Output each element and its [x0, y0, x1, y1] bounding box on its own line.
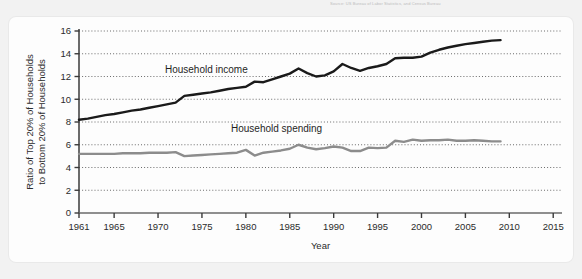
axes — [79, 29, 562, 213]
y-axis-ticks: 0246810121416 — [60, 25, 79, 218]
x-tick-label: 1975 — [191, 221, 212, 232]
y-tick-label: 4 — [66, 162, 71, 173]
y-tick-label: 8 — [66, 116, 71, 127]
x-tick-label: 1990 — [323, 221, 344, 232]
x-axis-ticks: 1961196519701975198019851990199520002005… — [68, 213, 563, 232]
x-tick-label: 1970 — [147, 221, 168, 232]
series-line — [79, 40, 501, 120]
top-caption-text: Source: US Bureau of Labor Statistics, a… — [330, 1, 530, 7]
y-tick-label: 0 — [66, 207, 71, 218]
x-tick-label: 1980 — [235, 221, 256, 232]
y-axis-title-line2: to Bottom 20% of Households — [36, 59, 47, 185]
x-tick-label: 2000 — [411, 221, 432, 232]
x-tick-label: 1961 — [68, 221, 89, 232]
x-tick-label: 2015 — [543, 221, 564, 232]
series-label: Household income — [165, 64, 248, 75]
chart-panel: 0246810121416 19611965197019751980198519… — [9, 17, 573, 262]
y-tick-label: 16 — [60, 25, 71, 36]
x-tick-label: 1965 — [104, 221, 125, 232]
series-label: Household spending — [231, 123, 322, 134]
y-tick-label: 14 — [60, 48, 71, 59]
data-series — [79, 40, 501, 156]
y-axis-title-line1: Ratio of Top 20% of Households — [24, 54, 35, 190]
y-tick-label: 6 — [66, 139, 71, 150]
y-tick-label: 2 — [66, 185, 71, 196]
x-axis-title: Year — [311, 240, 330, 251]
x-tick-label: 1995 — [367, 221, 388, 232]
line-chart: 0246810121416 19611965197019751980198519… — [9, 17, 573, 262]
y-tick-label: 12 — [60, 71, 71, 82]
y-tick-label: 10 — [60, 94, 71, 105]
gridlines — [79, 31, 562, 190]
x-tick-label: 1985 — [279, 221, 300, 232]
x-tick-label: 2005 — [455, 221, 476, 232]
chart-page: Source: US Bureau of Labor Statistics, a… — [0, 0, 582, 279]
series-labels: Household incomeHousehold spending — [165, 64, 322, 134]
x-tick-label: 2010 — [499, 221, 520, 232]
series-line — [79, 140, 501, 157]
